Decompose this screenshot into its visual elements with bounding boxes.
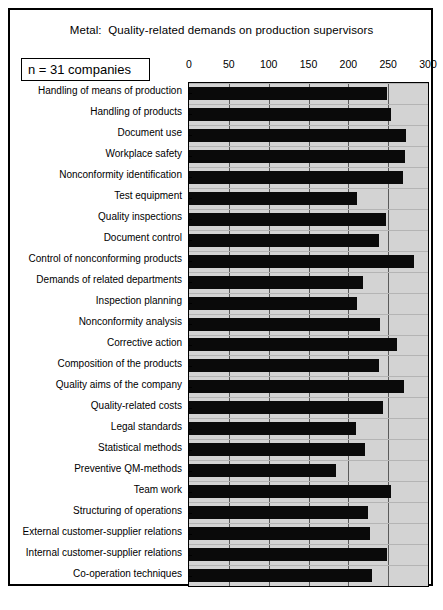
category-label: Test equipment bbox=[10, 190, 182, 201]
row-separator bbox=[189, 355, 428, 356]
bar bbox=[189, 150, 405, 163]
category-label: Workplace safety bbox=[10, 148, 182, 159]
row-separator bbox=[189, 460, 428, 461]
category-tick bbox=[189, 177, 192, 178]
category-label: Quality aims of the company bbox=[10, 379, 182, 390]
gridline-300 bbox=[428, 83, 429, 586]
category-label: Structuring of operations bbox=[10, 505, 182, 516]
row-separator bbox=[189, 104, 428, 105]
category-label: Control of nonconforming products bbox=[10, 253, 182, 264]
bar bbox=[189, 359, 379, 372]
category-tick bbox=[189, 513, 192, 514]
category-label: Nonconformity analysis bbox=[10, 316, 182, 327]
category-tick bbox=[189, 261, 192, 262]
category-label: Handling of products bbox=[10, 106, 182, 117]
xtick-label-200: 200 bbox=[340, 58, 358, 70]
row-separator bbox=[189, 481, 428, 482]
chart-figure: Metal: Quality-related demands on produc… bbox=[8, 8, 433, 586]
bar bbox=[189, 87, 387, 100]
category-tick bbox=[189, 135, 192, 136]
category-tick bbox=[189, 450, 192, 451]
bar bbox=[189, 318, 380, 331]
row-separator bbox=[189, 272, 428, 273]
xtick-label-0: 0 bbox=[186, 58, 192, 70]
category-label: Statistical methods bbox=[10, 442, 182, 453]
category-tick bbox=[189, 555, 192, 556]
bar bbox=[189, 548, 387, 561]
category-tick bbox=[189, 114, 192, 115]
row-separator bbox=[189, 167, 428, 168]
bar bbox=[189, 171, 403, 184]
category-label: Team work bbox=[10, 484, 182, 495]
xtick-label-150: 150 bbox=[300, 58, 318, 70]
x-axis-tick-labels: 050100150200250300 bbox=[10, 58, 433, 76]
category-axis-labels: Handling of means of productionHandling … bbox=[10, 82, 186, 587]
row-separator bbox=[189, 314, 428, 315]
category-label: Handling of means of production bbox=[10, 85, 182, 96]
row-separator bbox=[189, 293, 428, 294]
bar bbox=[189, 108, 391, 121]
bar bbox=[189, 527, 370, 540]
bar bbox=[189, 506, 368, 519]
bar bbox=[189, 234, 379, 247]
category-tick bbox=[189, 282, 192, 283]
bar bbox=[189, 297, 357, 310]
category-label: Nonconformity identification bbox=[10, 169, 182, 180]
bar bbox=[189, 380, 404, 393]
plot-area bbox=[188, 82, 429, 587]
category-label: Preventive QM-methods bbox=[10, 463, 182, 474]
category-tick bbox=[189, 198, 192, 199]
category-label: External customer-supplier relations bbox=[10, 526, 182, 537]
category-label: Inspection planning bbox=[10, 295, 182, 306]
bar bbox=[189, 129, 406, 142]
row-separator bbox=[189, 335, 428, 336]
row-separator bbox=[189, 146, 428, 147]
category-tick bbox=[189, 303, 192, 304]
category-tick bbox=[189, 219, 192, 220]
row-separator bbox=[189, 209, 428, 210]
category-tick bbox=[189, 93, 192, 94]
row-separator bbox=[189, 83, 428, 84]
category-label: Legal standards bbox=[10, 421, 182, 432]
bar bbox=[189, 569, 372, 582]
bar bbox=[189, 422, 356, 435]
bar bbox=[189, 401, 383, 414]
xtick-label-100: 100 bbox=[260, 58, 278, 70]
category-label: Demands of related departments bbox=[10, 274, 182, 285]
bar bbox=[189, 192, 357, 205]
category-label: Document control bbox=[10, 232, 182, 243]
chart-title: Metal: Quality-related demands on produc… bbox=[10, 24, 433, 36]
category-label: Document use bbox=[10, 127, 182, 138]
bar bbox=[189, 276, 363, 289]
category-tick bbox=[189, 534, 192, 535]
row-separator bbox=[189, 230, 428, 231]
row-separator bbox=[189, 397, 428, 398]
xtick-label-300: 300 bbox=[419, 58, 437, 70]
category-tick bbox=[189, 408, 192, 409]
category-label: Quality inspections bbox=[10, 211, 182, 222]
row-separator bbox=[189, 418, 428, 419]
category-tick bbox=[189, 471, 192, 472]
row-separator bbox=[189, 125, 428, 126]
bar bbox=[189, 255, 414, 268]
category-tick bbox=[189, 240, 192, 241]
category-label: Composition of the products bbox=[10, 358, 182, 369]
category-label: Internal customer-supplier relations bbox=[10, 547, 182, 558]
bar bbox=[189, 443, 365, 456]
category-label: Co-operation techniques bbox=[10, 568, 182, 579]
category-tick bbox=[189, 345, 192, 346]
category-tick bbox=[189, 429, 192, 430]
xtick-label-50: 50 bbox=[223, 58, 235, 70]
row-separator bbox=[189, 376, 428, 377]
category-label: Quality-related costs bbox=[10, 400, 182, 411]
category-tick bbox=[189, 387, 192, 388]
category-label: Corrective action bbox=[10, 337, 182, 348]
row-separator bbox=[189, 565, 428, 566]
row-separator bbox=[189, 523, 428, 524]
category-tick bbox=[189, 156, 192, 157]
row-separator bbox=[189, 544, 428, 545]
row-separator bbox=[189, 188, 428, 189]
category-tick bbox=[189, 576, 192, 577]
row-separator bbox=[189, 502, 428, 503]
xtick-label-250: 250 bbox=[379, 58, 397, 70]
